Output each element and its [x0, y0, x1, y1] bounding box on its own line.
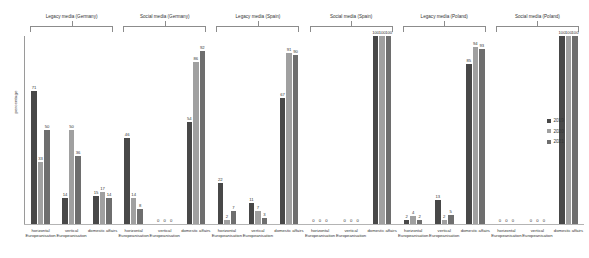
bar-value-label: 0: [157, 218, 159, 223]
bar-2021[interactable]: [293, 55, 299, 224]
bar-2021[interactable]: [448, 215, 454, 224]
grouped-bar-chart: percentage Legacy media (Germany)Social …: [0, 0, 589, 258]
bar-2019[interactable]: [31, 91, 37, 224]
bar-value-label: 13: [435, 194, 440, 199]
group-header-bracket: [30, 26, 113, 32]
group-header-label: Legacy media (Poland): [401, 14, 488, 20]
bar-2019[interactable]: [62, 198, 68, 224]
bar-2020[interactable]: [131, 198, 137, 224]
bar-value-label: 50: [45, 124, 50, 129]
bar-2019[interactable]: [218, 183, 224, 224]
bar-value-label: 0: [499, 218, 501, 223]
legend-item-2019[interactable]: 2019: [547, 118, 564, 123]
bar-2021[interactable]: [137, 209, 143, 224]
bar-cluster: 000: [527, 36, 547, 224]
bar-value-label: 46: [125, 132, 130, 137]
bar-2021[interactable]: [106, 198, 112, 224]
bar-2019[interactable]: [373, 36, 379, 224]
bar-wrapper: 2: [417, 36, 423, 224]
bar-cluster: 2227: [217, 36, 237, 224]
bar-wrapper: 0: [162, 36, 168, 224]
legend-item-2020[interactable]: 2020: [547, 129, 564, 134]
bar-2019[interactable]: [93, 196, 99, 224]
plot-area: 7133501450361517144614800054869222271173…: [25, 36, 584, 224]
bar-value-label: 100: [571, 30, 578, 35]
bar-wrapper: 36: [75, 36, 81, 224]
bar-wrapper: 14: [62, 36, 68, 224]
bar-cluster: 859493: [465, 36, 485, 224]
bar-2019[interactable]: [404, 220, 410, 224]
bar-2020[interactable]: [379, 36, 385, 224]
bar-2021[interactable]: [386, 36, 392, 224]
bar-wrapper: 91: [286, 36, 292, 224]
bar-2020[interactable]: [442, 220, 448, 224]
bar-2021[interactable]: [200, 51, 206, 224]
legend-item-2021[interactable]: 2021: [547, 139, 564, 144]
bar-wrapper: 2: [442, 36, 448, 224]
bar-2021[interactable]: [44, 130, 50, 224]
bar-cluster: 46148: [124, 36, 144, 224]
bar-wrapper: 71: [31, 36, 37, 224]
group-header-bracket: [123, 26, 206, 32]
bar-2019[interactable]: [466, 64, 472, 224]
x-tick-label: domestic affairs: [367, 228, 398, 233]
bar-value-label: 50: [69, 124, 74, 129]
x-tick-label: vertical Europeanisation: [522, 228, 553, 238]
bar-value-label: 11: [249, 197, 253, 202]
bar-2020[interactable]: [100, 192, 106, 224]
y-axis-label: percentage: [13, 100, 18, 114]
bar-2019[interactable]: [249, 203, 255, 224]
bar-2020[interactable]: [255, 211, 261, 224]
bar-value-label: 14: [63, 192, 68, 197]
bar-cluster: 1325: [434, 36, 454, 224]
bar-2019[interactable]: [187, 122, 193, 224]
x-tick-label: vertical Europeanisation: [56, 228, 87, 238]
bar-2021[interactable]: [572, 36, 578, 224]
bar-wrapper: 94: [473, 36, 479, 224]
bar-value-label: 0: [343, 218, 345, 223]
bar-value-label: 93: [479, 43, 484, 48]
bar-wrapper: 7: [255, 36, 261, 224]
bar-2020[interactable]: [410, 216, 416, 224]
bar-wrapper: 0: [311, 36, 317, 224]
bar-cluster: 100100100: [372, 36, 392, 224]
bar-value-label: 17: [100, 186, 105, 191]
bar-wrapper: 2: [404, 36, 410, 224]
bar-2020[interactable]: [566, 36, 572, 224]
group-header-label: Social media (Poland): [494, 14, 581, 20]
bar-2020[interactable]: [193, 62, 199, 224]
bar-2020[interactable]: [473, 47, 479, 224]
x-tick-label: horizontal Europeanisation: [118, 228, 149, 238]
bar-2020[interactable]: [69, 130, 75, 224]
bar-wrapper: 90: [293, 36, 299, 224]
bar-2019[interactable]: [435, 200, 441, 224]
bar-2020[interactable]: [224, 220, 230, 224]
bar-2021[interactable]: [479, 49, 485, 224]
bar-2020[interactable]: [38, 162, 44, 224]
bar-2021[interactable]: [417, 220, 423, 224]
bar-value-label: 0: [319, 218, 321, 223]
bar-wrapper: 86: [193, 36, 199, 224]
bar-value-label: 94: [473, 41, 478, 46]
bar-2019[interactable]: [124, 138, 130, 224]
bar-value-label: 8: [139, 203, 141, 208]
bar-cluster: 000: [155, 36, 175, 224]
bar-wrapper: 5: [448, 36, 454, 224]
bar-wrapper: 100: [379, 36, 385, 224]
bar-cluster: 000: [341, 36, 361, 224]
x-tick-label: vertical Europeanisation: [429, 228, 460, 238]
bar-wrapper: 15: [93, 36, 99, 224]
bar-2021[interactable]: [262, 218, 268, 224]
bar-wrapper: 0: [317, 36, 323, 224]
bar-wrapper: 100: [566, 36, 572, 224]
x-tick-label: horizontal Europeanisation: [305, 228, 336, 238]
bar-2021[interactable]: [75, 156, 81, 224]
bar-2020[interactable]: [286, 53, 292, 224]
bar-wrapper: 0: [342, 36, 348, 224]
bar-2021[interactable]: [231, 211, 237, 224]
bar-wrapper: 2: [224, 36, 230, 224]
bar-2019[interactable]: [280, 98, 286, 224]
bar-value-label: 0: [543, 218, 545, 223]
bar-wrapper: 100: [373, 36, 379, 224]
bar-value-label: 0: [312, 218, 314, 223]
